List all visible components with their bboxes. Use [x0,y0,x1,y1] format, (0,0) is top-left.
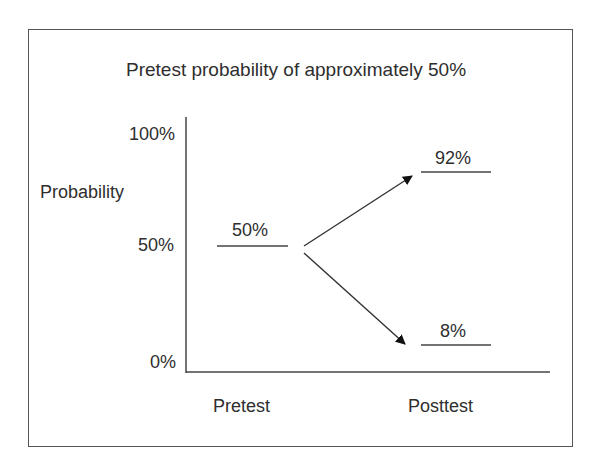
arrow-down-icon [304,253,405,344]
arrow-up-icon [304,176,412,246]
chart-lines [0,0,601,471]
